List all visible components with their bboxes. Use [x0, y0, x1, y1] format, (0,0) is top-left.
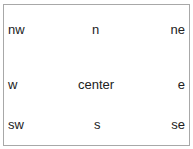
label-north: n [92, 22, 99, 37]
label-east: e [178, 77, 185, 92]
label-southeast: se [171, 117, 185, 132]
label-southwest: sw [8, 117, 24, 132]
label-south: s [94, 117, 101, 132]
label-northwest: nw [8, 22, 25, 37]
label-west: w [8, 77, 17, 92]
compass-grid-frame: nw n ne w center e sw s se [3, 4, 190, 146]
label-center: center [78, 77, 114, 92]
label-northeast: ne [171, 22, 185, 37]
